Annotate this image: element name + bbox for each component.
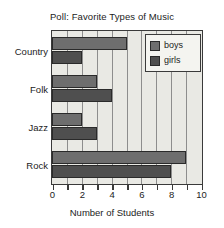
legend-item-girls: girls (150, 53, 200, 68)
legend-swatch-girls (150, 56, 160, 66)
x-axis-title: Number of Students (0, 207, 224, 218)
y-axis-category-labels: CountryFolkJazzRock (0, 30, 48, 185)
y-axis-label-jazz: Jazz (0, 121, 48, 132)
bar-rock-girls (52, 165, 171, 178)
bar-folk-boys (52, 75, 97, 88)
bar-country-boys (52, 37, 127, 50)
x-tick-label-4: 4 (109, 189, 114, 200)
x-tick-label-0: 0 (50, 189, 55, 200)
legend-swatch-boys (150, 41, 160, 51)
bar-folk-girls (52, 89, 112, 102)
chart-title: Poll: Favorite Types of Music (0, 11, 224, 22)
bar-jazz-boys (52, 113, 82, 126)
y-axis-label-country: Country (0, 45, 48, 56)
x-tick-label-10: 10 (196, 189, 207, 200)
x-tick-label-8: 8 (169, 189, 174, 200)
bar-country-girls (52, 51, 82, 64)
legend-label-boys: boys (164, 41, 183, 50)
y-axis-label-folk: Folk (0, 83, 48, 94)
x-tick-label-6: 6 (139, 189, 144, 200)
bar-rock-boys (52, 151, 186, 164)
legend-item-boys: boys (150, 38, 200, 53)
legend-label-girls: girls (164, 56, 181, 65)
bar-chart: Poll: Favorite Types of Music CountryFol… (0, 0, 224, 228)
x-tick-label-2: 2 (80, 189, 85, 200)
y-axis-label-rock: Rock (0, 159, 48, 170)
x-axis-tick-labels: 0246810 (51, 189, 203, 203)
chart-legend: boysgirls (145, 34, 201, 72)
bar-jazz-girls (52, 127, 97, 140)
